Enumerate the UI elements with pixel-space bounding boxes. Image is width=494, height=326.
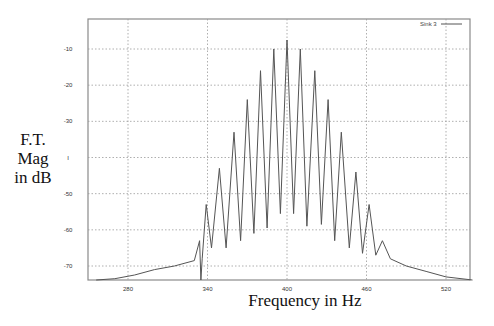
y-tick-label: -60 (64, 227, 73, 233)
x-axis-label: Frequency in Hz (195, 291, 415, 311)
y-axis-label-line1: F.T. (0, 130, 66, 149)
y-tick-label: -50 (64, 191, 73, 197)
legend-label: Sink 3 (420, 21, 437, 27)
y-tick-label: -70 (64, 263, 73, 269)
spectrum-chart: -10-20-30I-50-60-70 280340400460520 Sink… (0, 0, 494, 326)
plot-area (88, 19, 470, 280)
x-tick-label: 520 (441, 286, 452, 292)
y-axis-label: F.T. Mag in dB (0, 130, 66, 187)
x-tick-label: 280 (123, 286, 134, 292)
y-axis-label-line2: Mag (0, 149, 66, 168)
y-axis-label-line3: in dB (0, 168, 66, 187)
y-tick-label: -20 (64, 82, 73, 88)
y-tick-label: -10 (64, 46, 73, 52)
y-tick-label: -30 (64, 118, 73, 124)
y-tick-label: I (67, 155, 69, 161)
